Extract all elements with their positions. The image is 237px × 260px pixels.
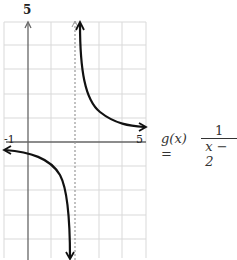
- axes: [6, 22, 146, 260]
- right-branch: [80, 24, 144, 127]
- x-min-label: -1: [4, 133, 15, 146]
- numerator: 1: [211, 123, 227, 138]
- fraction: 1 x − 2: [201, 123, 237, 169]
- function-graph: [0, 0, 150, 260]
- formula-lhs: g(x) =: [161, 131, 195, 161]
- x-max-label: 5: [136, 133, 143, 146]
- denominator: x − 2: [201, 139, 237, 169]
- function-formula: g(x) = 1 x − 2: [161, 123, 237, 169]
- y-max-label: 5: [23, 3, 31, 17]
